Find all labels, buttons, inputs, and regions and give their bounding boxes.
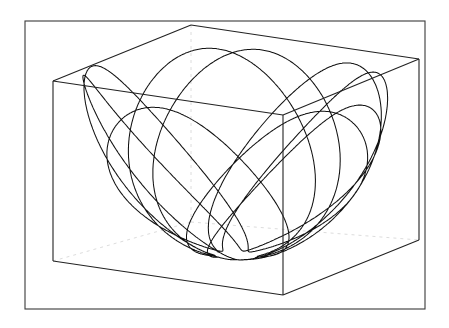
edge-bottom-front-right <box>283 240 419 295</box>
edge-top-back-right <box>191 25 419 59</box>
pendulum-trajectory-curve <box>83 48 388 260</box>
edge-top-left-front <box>53 81 283 115</box>
hidden-edge-back-left-bottom <box>53 222 191 261</box>
pendulum-trajectory-group <box>83 48 388 260</box>
edge-top-left-back <box>53 25 191 81</box>
figure-canvas <box>0 0 449 328</box>
edge-bottom-left-front <box>53 261 283 295</box>
